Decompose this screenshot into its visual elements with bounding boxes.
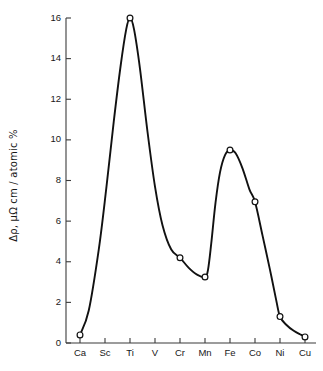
plot-canvas: 0246810121416 CaScTiVCrMnFeCoNiCu [0, 0, 323, 371]
data-point-marker [177, 255, 183, 261]
data-curve [80, 18, 305, 337]
x-tick-label: Sc [99, 347, 110, 358]
data-point-marker [127, 15, 133, 21]
y-tick-group [66, 18, 71, 343]
chart-figure: Δρ, μΩ cm / atomic % 0246810121416 CaScT… [0, 0, 323, 371]
y-tick-label: 16 [50, 12, 61, 23]
data-point-marker [302, 334, 308, 340]
x-tick-label: Co [249, 347, 261, 358]
x-tick-label: Fe [224, 347, 235, 358]
x-tick-label: Ca [74, 347, 87, 358]
data-point-marker [252, 199, 258, 205]
y-tick-label: 14 [50, 52, 61, 63]
y-tick-label: 2 [56, 296, 61, 307]
x-tick-label: Mn [198, 347, 211, 358]
data-point-marker [202, 274, 208, 280]
x-tick-label: Cu [299, 347, 311, 358]
y-tick-label-group: 0246810121416 [50, 12, 61, 348]
data-point-marker [227, 147, 233, 153]
data-marker-group [77, 15, 308, 340]
x-tick-label: Ni [276, 347, 285, 358]
y-tick-label: 0 [56, 337, 61, 348]
data-point-marker [77, 332, 83, 338]
x-tick-group [80, 338, 305, 343]
y-tick-label: 6 [56, 215, 61, 226]
y-tick-label: 4 [56, 255, 61, 266]
x-tick-label: Ti [126, 347, 134, 358]
data-point-marker [277, 314, 283, 320]
y-tick-label: 10 [50, 133, 61, 144]
x-tick-label: Cr [175, 347, 185, 358]
x-tick-label: V [152, 347, 159, 358]
y-tick-label: 8 [56, 174, 61, 185]
x-tick-label-group: CaScTiVCrMnFeCoNiCu [74, 347, 311, 358]
y-tick-label: 12 [50, 93, 61, 104]
